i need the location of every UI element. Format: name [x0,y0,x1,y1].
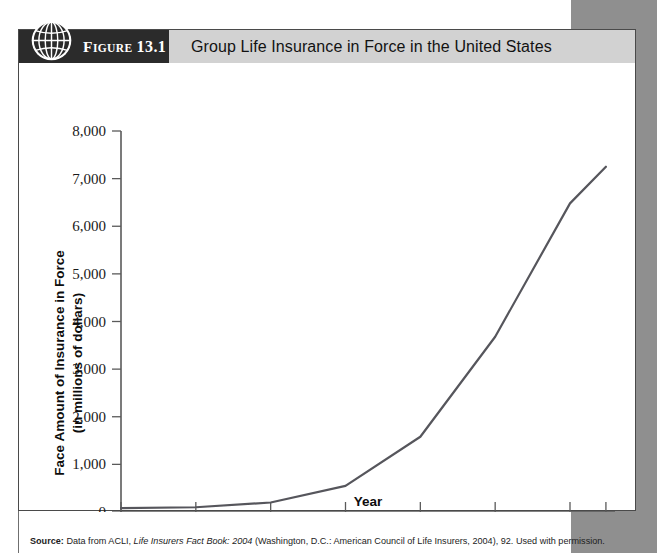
y-tick-label: 6,000 [72,218,106,234]
figure-title: Group Life Insurance in Force in the Uni… [191,38,552,56]
y-tick-label: 8,000 [72,123,106,139]
y-tick-label: 5,000 [72,266,106,282]
line-chart: 01,0002,0003,0004,0005,0006,0007,0008,00… [19,63,635,512]
y-tick-label: 0 [99,504,107,512]
source-text-1: Data from ACLI, [64,536,134,546]
y-axis-title-line1: Face Amount of Insurance in Force [52,250,67,476]
data-series-line [121,167,606,508]
source-text-2: (Washington, D.C.: American Council of L… [252,536,604,546]
source-prefix: Source: [30,536,64,546]
x-axis-title: Year [354,494,383,509]
page-left-rule [18,511,19,553]
figure-page: FIGURE 13.1 Group Life Insurance in Forc… [0,0,657,553]
figure-frame: FIGURE 13.1 Group Life Insurance in Forc… [18,29,636,511]
y-axis-ticks [112,131,121,512]
figure-number: 13.1 [137,38,167,55]
source-note: Source: Data from ACLI, Life Insurers Fa… [30,536,590,547]
y-tick-label: 1,000 [72,456,106,472]
chart-plot-area: 01,0002,0003,0004,0005,0006,0007,0008,00… [19,63,635,512]
y-tick-label: 7,000 [72,171,106,187]
figure-header: FIGURE 13.1 Group Life Insurance in Forc… [19,30,635,63]
figure-number-label: FIGURE 13.1 [83,38,166,56]
source-italic-title: Life Insurers Fact Book: 2004 [134,536,253,546]
figure-title-strip: Group Life Insurance in Force in the Uni… [169,30,635,63]
globe-icon [29,18,74,63]
y-axis-title-line2: (in millions of dollars) [70,293,85,433]
figure-label-block: FIGURE 13.1 [19,30,169,63]
